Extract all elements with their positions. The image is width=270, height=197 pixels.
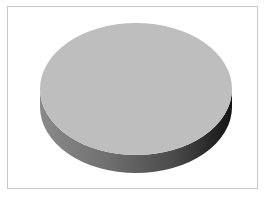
- pie-chart-3d: [0, 0, 270, 197]
- pie-slice-top[interactable]: [40, 23, 232, 155]
